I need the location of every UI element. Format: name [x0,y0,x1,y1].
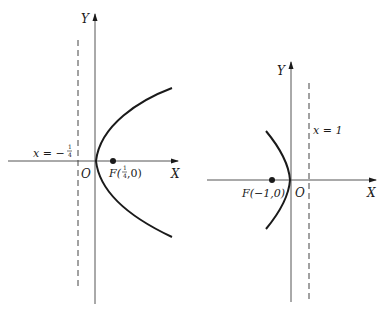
left-origin-label: O [81,167,91,181]
left-parabola [96,88,172,237]
diagram-canvas: Y X O F( 1 4 ,0) x = − 1 4 Y X O F(−1,0)… [0,0,383,309]
left-figure: Y X O F( 1 4 ,0) x = − 1 4 [8,12,180,304]
svg-text:x = −: x = − [33,147,65,160]
right-focus-label: F(−1,0) [241,187,285,200]
right-origin-label: O [295,186,305,200]
left-focus-point [110,158,116,164]
left-focus-label: F( 1 4 ,0) [108,164,142,180]
svg-text:4: 4 [68,151,72,158]
left-y-label: Y [81,12,90,26]
left-directrix-label: x = − 1 4 [33,143,72,160]
right-figure: Y X O F(−1,0) x = 1 [207,62,376,302]
svg-text:F(: F( [108,167,122,180]
right-x-label: X [366,186,376,200]
right-y-label: Y [277,64,286,78]
svg-text:1: 1 [68,143,72,150]
right-directrix-label: x = 1 [313,124,342,137]
right-focus-point [269,177,275,183]
left-x-label: X [170,167,180,181]
svg-text:,0): ,0) [127,167,142,180]
